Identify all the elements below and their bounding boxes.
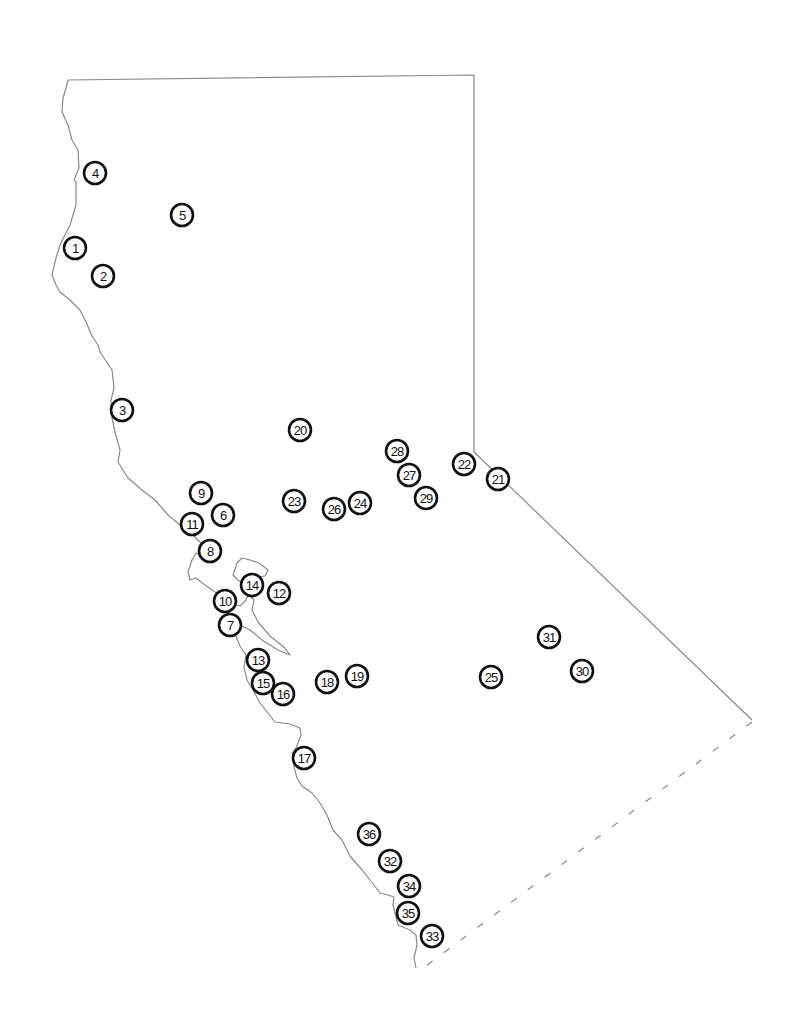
site-marker-36[interactable]: 36 xyxy=(358,823,380,845)
site-marker-28[interactable]: 28 xyxy=(386,440,408,462)
site-marker-25[interactable]: 25 xyxy=(480,666,502,688)
site-marker-21[interactable]: 21 xyxy=(487,468,509,490)
site-marker-34[interactable]: 34 xyxy=(398,875,420,897)
state-border xyxy=(52,75,752,968)
marker-label: 13 xyxy=(252,653,265,668)
marker-label: 12 xyxy=(273,586,286,601)
marker-label: 33 xyxy=(426,929,439,944)
site-marker-14[interactable]: 14 xyxy=(241,574,263,596)
site-marker-33[interactable]: 33 xyxy=(421,925,443,947)
marker-label: 28 xyxy=(391,444,404,459)
site-marker-15[interactable]: 15 xyxy=(252,672,274,694)
site-marker-18[interactable]: 18 xyxy=(316,671,338,693)
site-marker-20[interactable]: 20 xyxy=(289,419,311,441)
site-marker-17[interactable]: 17 xyxy=(293,747,315,769)
site-marker-9[interactable]: 9 xyxy=(190,482,212,504)
marker-label: 23 xyxy=(288,494,301,509)
marker-label: 9 xyxy=(198,486,205,501)
site-marker-8[interactable]: 8 xyxy=(199,540,221,562)
site-marker-11[interactable]: 11 xyxy=(181,513,203,535)
site-marker-29[interactable]: 29 xyxy=(415,487,437,509)
marker-label: 32 xyxy=(384,854,397,869)
marker-label: 2 xyxy=(100,269,107,284)
marker-label: 22 xyxy=(458,457,471,472)
marker-label: 19 xyxy=(351,669,364,684)
site-marker-7[interactable]: 7 xyxy=(219,614,241,636)
site-marker-27[interactable]: 27 xyxy=(398,464,420,486)
marker-label: 14 xyxy=(246,578,259,593)
marker-label: 5 xyxy=(179,208,186,223)
marker-label: 36 xyxy=(363,827,376,842)
marker-label: 1 xyxy=(72,241,79,256)
site-marker-23[interactable]: 23 xyxy=(283,490,305,512)
site-marker-1[interactable]: 1 xyxy=(64,237,86,259)
marker-label: 20 xyxy=(294,423,307,438)
marker-label: 10 xyxy=(219,594,232,609)
marker-label: 30 xyxy=(576,664,589,679)
marker-label: 6 xyxy=(220,508,227,523)
site-marker-32[interactable]: 32 xyxy=(379,850,401,872)
southern-border-dashed xyxy=(418,722,752,972)
marker-label: 34 xyxy=(403,879,416,894)
site-marker-19[interactable]: 19 xyxy=(346,665,368,687)
marker-label: 11 xyxy=(186,517,198,532)
site-marker-4[interactable]: 4 xyxy=(84,162,106,184)
site-marker-12[interactable]: 12 xyxy=(268,582,290,604)
marker-label: 3 xyxy=(119,403,126,418)
marker-label: 31 xyxy=(543,630,556,645)
site-marker-35[interactable]: 35 xyxy=(397,902,419,924)
site-marker-31[interactable]: 31 xyxy=(538,626,560,648)
marker-label: 29 xyxy=(420,491,433,506)
site-marker-2[interactable]: 2 xyxy=(92,265,114,287)
site-marker-22[interactable]: 22 xyxy=(453,453,475,475)
marker-label: 35 xyxy=(402,906,415,921)
site-marker-3[interactable]: 3 xyxy=(111,399,133,421)
site-marker-26[interactable]: 26 xyxy=(323,498,345,520)
marker-label: 18 xyxy=(321,675,334,690)
site-marker-24[interactable]: 24 xyxy=(349,492,371,514)
site-marker-30[interactable]: 30 xyxy=(571,660,593,682)
marker-label: 8 xyxy=(207,544,214,559)
marker-label: 16 xyxy=(277,687,290,702)
marker-label: 27 xyxy=(403,468,416,483)
site-marker-16[interactable]: 16 xyxy=(272,683,294,705)
marker-label: 21 xyxy=(492,472,505,487)
marker-label: 17 xyxy=(298,751,311,766)
region-map: 1234567891011121314151617181920212223242… xyxy=(0,0,812,1031)
marker-label: 25 xyxy=(485,670,498,685)
marker-label: 7 xyxy=(227,618,234,633)
site-markers: 1234567891011121314151617181920212223242… xyxy=(64,162,593,947)
site-marker-10[interactable]: 10 xyxy=(214,590,236,612)
site-marker-13[interactable]: 13 xyxy=(247,649,269,671)
marker-label: 24 xyxy=(354,496,367,511)
marker-label: 26 xyxy=(328,502,341,517)
site-marker-5[interactable]: 5 xyxy=(171,204,193,226)
marker-label: 15 xyxy=(257,676,270,691)
site-marker-6[interactable]: 6 xyxy=(212,504,234,526)
marker-label: 4 xyxy=(92,166,99,181)
